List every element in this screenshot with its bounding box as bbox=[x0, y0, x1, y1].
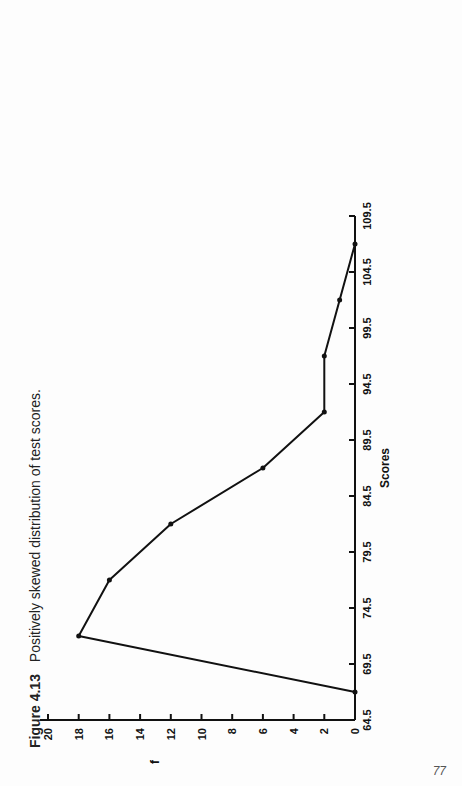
x-tick-label: 109.5 bbox=[361, 202, 373, 230]
y-tick-label: 18 bbox=[73, 728, 85, 740]
data-point bbox=[107, 578, 112, 583]
data-point bbox=[76, 634, 81, 639]
data-point bbox=[353, 690, 358, 695]
y-tick-label: 2 bbox=[318, 728, 330, 734]
y-tick-label: 4 bbox=[288, 727, 300, 734]
rotated-figure: 64.569.574.579.584.589.594.599.5104.5109… bbox=[0, 0, 462, 786]
y-tick-label: 20 bbox=[42, 728, 54, 740]
y-axis-title: f bbox=[148, 759, 162, 764]
x-tick-label: 94.5 bbox=[361, 373, 373, 394]
x-tick-label: 99.5 bbox=[361, 317, 373, 338]
y-tick-label: 0 bbox=[349, 728, 361, 734]
figure-label: Figure 4.13 bbox=[27, 674, 43, 748]
data-point bbox=[322, 410, 327, 415]
x-tick-label: 74.5 bbox=[361, 597, 373, 618]
data-point bbox=[353, 242, 358, 247]
chart-series bbox=[76, 242, 357, 695]
figure-caption-text: Positively skewed distribution of test s… bbox=[27, 389, 43, 662]
x-tick-label: 84.5 bbox=[361, 485, 373, 506]
x-axis-title: Scores bbox=[378, 448, 392, 488]
y-tick-label: 10 bbox=[196, 728, 208, 740]
x-tick-label: 79.5 bbox=[361, 541, 373, 562]
data-point bbox=[337, 298, 342, 303]
y-tick-label: 8 bbox=[226, 728, 238, 734]
y-tick-label: 14 bbox=[134, 727, 146, 740]
x-tick-label: 69.5 bbox=[361, 653, 373, 674]
y-tick-label: 12 bbox=[165, 728, 177, 740]
frequency-line bbox=[79, 244, 355, 692]
chart-ticks: 64.569.574.579.584.589.594.599.5104.5109… bbox=[42, 202, 373, 740]
x-tick-label: 89.5 bbox=[361, 429, 373, 450]
y-tick-label: 6 bbox=[257, 728, 269, 734]
data-point bbox=[322, 354, 327, 359]
data-point bbox=[260, 466, 265, 471]
data-point bbox=[168, 522, 173, 527]
frequency-polygon-chart: 64.569.574.579.584.589.594.599.5104.5109… bbox=[0, 0, 462, 786]
x-tick-label: 104.5 bbox=[361, 258, 373, 286]
chart-axes bbox=[40, 216, 355, 720]
page-number: 77 bbox=[433, 764, 446, 778]
y-tick-label: 16 bbox=[103, 728, 115, 740]
x-tick-label: 64.5 bbox=[361, 709, 373, 730]
book-page: 64.569.574.579.584.589.594.599.5104.5109… bbox=[0, 0, 462, 786]
figure-caption: Figure 4.13 Positively skewed distributi… bbox=[27, 389, 43, 748]
